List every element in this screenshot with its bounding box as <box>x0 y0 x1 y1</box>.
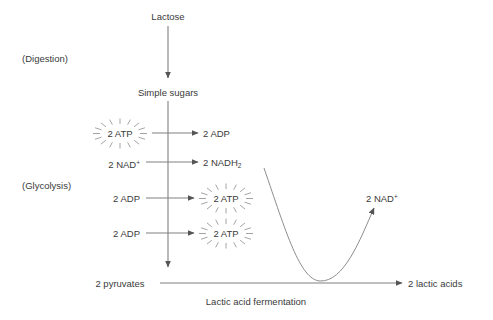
node-label-text: 2 ADP <box>203 128 230 139</box>
node-label-text: 2 NADH <box>203 157 238 168</box>
node-label-atp-out-1: 2 ATP <box>213 193 238 204</box>
diagram-caption: Lactic acid fermentation <box>206 296 306 307</box>
node-label-text: 2 ADP <box>113 228 140 239</box>
node-label-text: Simple sugars <box>138 87 198 98</box>
subscript-count: 2 <box>238 162 242 169</box>
superscript-charge: + <box>394 193 398 200</box>
node-label-adp-out: 2 ADP <box>203 128 230 139</box>
arrow-group <box>146 26 402 283</box>
node-label-lactose: Lactose <box>151 11 184 22</box>
node-label-text: 2 lactic acids <box>408 278 462 289</box>
stage-label-digestion: (Digestion) <box>22 53 68 64</box>
node-label-adp-in-2: 2 ADP <box>0 228 140 239</box>
node-label-text: Lactose <box>151 11 184 22</box>
node-label-pyruvates: 2 pyruvates <box>95 278 144 289</box>
stage-label-glycolysis: (Glycolysis) <box>22 180 71 191</box>
node-label-simple-sugars: Simple sugars <box>138 87 198 98</box>
node-label-nadh2-out: 2 NADH2 <box>203 157 241 171</box>
node-label-text: 2 ATP <box>213 193 238 204</box>
node-label-text: 2 ADP <box>113 193 140 204</box>
node-label-text: 2 NAD <box>108 159 136 170</box>
lactic-acid-fermentation-diagram: (Digestion)(Glycolysis) LactoseSimple su… <box>0 0 493 320</box>
arrow-nadh2-to-nad-curve <box>264 168 374 281</box>
node-label-text: 2 ATP <box>107 128 132 139</box>
node-label-text: 2 ATP <box>213 228 238 239</box>
node-label-nad-regen: 2 NAD+ <box>366 191 398 204</box>
node-label-adp-in-1: 2 ADP <box>0 193 140 204</box>
node-label-atp-in: 2 ATP <box>107 128 132 139</box>
node-label-lactic-acids: 2 lactic acids <box>408 278 462 289</box>
node-label-text: 2 NAD <box>366 193 394 204</box>
node-label-text: 2 pyruvates <box>95 278 144 289</box>
superscript-charge: + <box>136 159 140 166</box>
node-label-nad-in: 2 NAD+ <box>0 157 140 170</box>
node-label-atp-out-2: 2 ATP <box>213 228 238 239</box>
